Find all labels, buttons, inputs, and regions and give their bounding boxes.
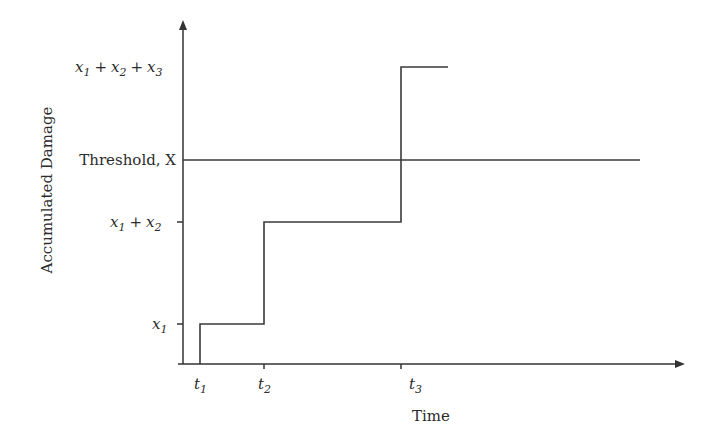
x-axis-arrow-icon <box>675 360 685 368</box>
y-label-x1: x1 <box>152 315 167 336</box>
x-label-t1: t1 <box>194 375 207 396</box>
damage-step-line <box>200 67 448 364</box>
y-label-x1-plus-x2: x1+x2 <box>110 213 162 234</box>
y-axis-title: Accumulated Damage <box>38 106 56 274</box>
y-axis-arrow-icon <box>179 20 187 30</box>
y-label-x1-x2-x3: x1+x2+x3 <box>75 58 163 79</box>
step-damage-diagram: x1 x1+x2 Threshold, X x1+x2+x3 t1 t2 t3 … <box>0 0 720 446</box>
x-label-t3: t3 <box>409 375 422 396</box>
x-label-t2: t2 <box>258 375 271 396</box>
x-axis-title: Time <box>412 407 450 425</box>
y-label-threshold: Threshold, X <box>79 151 176 169</box>
